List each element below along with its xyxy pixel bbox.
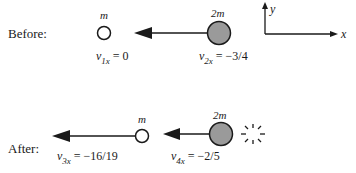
mass-label-2m-before: 2m bbox=[211, 7, 224, 19]
mass-label-2m-after: 2m bbox=[213, 109, 226, 121]
axis-x-label: x bbox=[341, 27, 346, 42]
before-label: Before: bbox=[8, 26, 47, 42]
axis-y-label: y bbox=[270, 2, 275, 17]
mass-label-m-before: m bbox=[100, 9, 108, 21]
after-label: After: bbox=[8, 141, 39, 157]
velocity-arrow-m-after bbox=[52, 130, 136, 142]
mass-label-m-after: m bbox=[138, 113, 146, 125]
collision-burst-icon bbox=[241, 124, 265, 144]
velocity-v1x: v1x = 0 bbox=[96, 49, 129, 64]
ball-2m-after bbox=[210, 123, 233, 146]
velocity-v4x: v4x = −2/5 bbox=[171, 149, 220, 164]
collision-diagram bbox=[0, 0, 356, 173]
ball-2m-before bbox=[208, 22, 231, 45]
velocity-v2x: v2x = −3/4 bbox=[199, 49, 248, 64]
velocity-v3x: v3x = −16/19 bbox=[57, 149, 118, 164]
ball-m-after bbox=[136, 130, 149, 143]
velocity-arrow-2m-after bbox=[163, 128, 209, 140]
ball-m-before bbox=[98, 27, 111, 40]
velocity-arrow-before bbox=[134, 27, 207, 39]
